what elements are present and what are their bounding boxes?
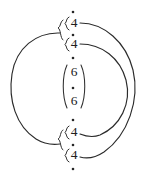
numeral-6: 4 bbox=[71, 147, 78, 162]
numeral-2: 4 bbox=[71, 36, 78, 51]
arc-diagram-figure: 4 4 6 6 4 4 bbox=[0, 0, 146, 178]
brace-bottom-numeral-5 bbox=[65, 126, 69, 139]
dot-top bbox=[72, 11, 75, 14]
dot-bottom bbox=[72, 168, 75, 171]
arc-right-outer bbox=[80, 23, 135, 158]
brace-top-numeral-1 bbox=[65, 17, 69, 30]
paren-left bbox=[63, 65, 67, 108]
numeral-3: 6 bbox=[71, 64, 78, 79]
arc-diagram-canvas: 4 4 6 6 4 4 bbox=[0, 0, 146, 178]
numeral-4: 6 bbox=[71, 93, 78, 108]
numeral-5: 4 bbox=[71, 124, 78, 139]
arc-right-inner bbox=[80, 44, 128, 137]
arc-left-outer bbox=[11, 33, 60, 144]
dot-4 bbox=[72, 87, 75, 90]
dot-6 bbox=[72, 144, 75, 147]
brace-bottom-numeral-6 bbox=[65, 149, 69, 162]
brace-bottom-left bbox=[58, 130, 63, 150]
brace-top-left bbox=[58, 20, 63, 40]
numeral-1: 4 bbox=[71, 15, 78, 30]
dot-3 bbox=[72, 57, 75, 60]
paren-right bbox=[81, 65, 85, 108]
brace-top-numeral-2 bbox=[65, 38, 69, 51]
dot-5 bbox=[72, 119, 75, 122]
